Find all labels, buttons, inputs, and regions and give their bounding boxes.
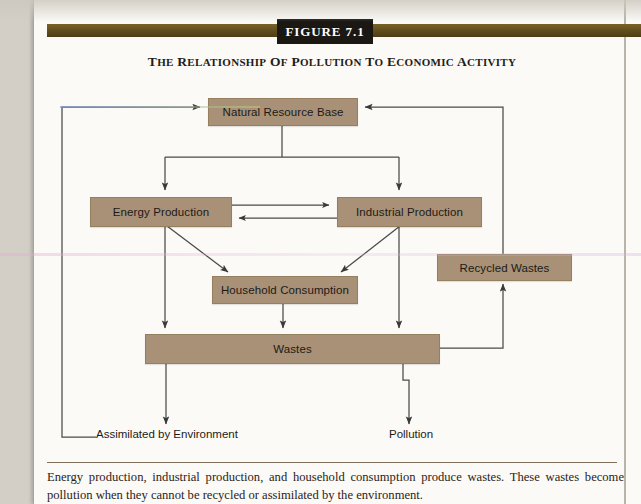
node-industrial-production[interactable]: Industrial Production xyxy=(337,197,482,227)
node-energy-production[interactable]: Energy Production xyxy=(90,197,232,227)
node-label: Energy Production xyxy=(113,206,209,218)
figure-page: FIGURE 7.1 THE RELATIONSHIP OF POLLUTION… xyxy=(0,0,641,504)
label-pollution: Pollution xyxy=(389,428,433,440)
edge-wastes-to-pollution xyxy=(403,362,409,424)
figure-caption: Energy production, industrial production… xyxy=(47,468,624,504)
edge-energy-to-household xyxy=(167,226,228,272)
node-wastes[interactable]: Wastes xyxy=(145,334,440,364)
node-household-consumption[interactable]: Household Consumption xyxy=(212,276,358,304)
edge-recycled-to-natural-resource xyxy=(365,107,503,254)
node-label: Industrial Production xyxy=(356,206,463,218)
node-label: Natural Resource Base xyxy=(223,106,344,118)
node-label: Wastes xyxy=(273,343,312,355)
label-assimilated-by-environment: Assimilated by Environment xyxy=(96,428,238,440)
edge-wastes-to-recycled xyxy=(439,284,503,348)
caption-divider xyxy=(47,462,617,463)
node-label: Recycled Wastes xyxy=(460,262,550,274)
edge-industrial-to-household xyxy=(341,226,400,272)
node-recycled-wastes[interactable]: Recycled Wastes xyxy=(437,254,572,281)
node-label: Household Consumption xyxy=(221,284,349,296)
node-natural-resource-base[interactable]: Natural Resource Base xyxy=(208,98,358,126)
